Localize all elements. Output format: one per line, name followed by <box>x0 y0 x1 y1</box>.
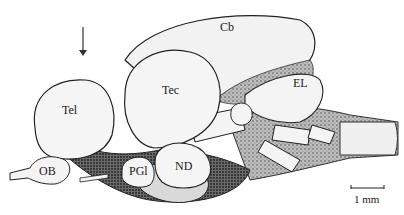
scale-bar <box>351 185 384 189</box>
arrow-indicator <box>79 27 87 56</box>
label-telencephalon: Tel <box>62 104 77 116</box>
label-tectum: Tec <box>162 84 179 96</box>
label-pgl: PGl <box>129 165 148 177</box>
spinal-cord <box>340 122 398 155</box>
telencephalon <box>34 80 114 159</box>
label-ob: OB <box>39 165 56 177</box>
scale-bar-label: 1 mm <box>354 193 379 205</box>
label-el: EL <box>293 77 308 89</box>
label-cerebellum: Cb <box>220 21 234 33</box>
small-knob <box>231 103 252 125</box>
label-nd: ND <box>175 160 192 172</box>
brain-illustration <box>0 0 404 215</box>
